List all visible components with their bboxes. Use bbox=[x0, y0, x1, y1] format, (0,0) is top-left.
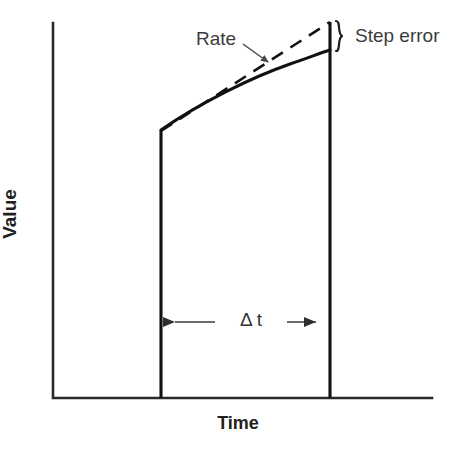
step-error-label: Step error bbox=[355, 26, 439, 45]
rate-leader-arrow-icon bbox=[243, 44, 268, 62]
delta-t-label: Δ t bbox=[215, 310, 287, 329]
step-error-brace-icon bbox=[336, 21, 342, 51]
x-axis-label: Time bbox=[178, 414, 298, 432]
rate-label: Rate bbox=[196, 29, 236, 48]
y-axis-label: Value bbox=[0, 186, 19, 242]
value-curve bbox=[161, 50, 330, 130]
diagram-canvas bbox=[0, 0, 462, 451]
rate-tangent-dashed-line bbox=[161, 22, 330, 131]
step-error-diagram: Value Time Δ t Rate Step error bbox=[0, 0, 462, 451]
